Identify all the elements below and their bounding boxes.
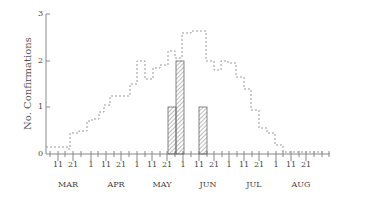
y-tick-label: 2 xyxy=(33,56,43,65)
y-tick-label: 0 xyxy=(33,149,43,158)
y-axis-label: No. Confirmations xyxy=(22,29,33,139)
y-ticks xyxy=(46,14,50,107)
x-tick-label: 21 xyxy=(296,160,316,169)
month-label-apr: APR xyxy=(101,180,131,189)
dashed-step-line xyxy=(46,31,325,152)
bar-may-26 xyxy=(176,61,184,154)
month-label-jul: JUL xyxy=(239,180,269,189)
month-label-may: MAY xyxy=(147,180,177,189)
x-tick-label: 21 xyxy=(63,160,83,169)
bar-jun-10 xyxy=(199,107,207,154)
month-label-aug: AUG xyxy=(286,180,316,189)
bar-may-21 xyxy=(168,107,176,154)
y-tick-label: 3 xyxy=(33,9,43,18)
month-label-mar: MAR xyxy=(53,180,83,189)
y-tick-label: 1 xyxy=(33,102,43,111)
confirmation-bars xyxy=(168,61,207,154)
chart: No. Confirmations 3 2 1 0 11 21 1 11 21 … xyxy=(0,0,365,199)
month-label-jun: JUN xyxy=(193,180,223,189)
chart-plot xyxy=(0,0,365,199)
